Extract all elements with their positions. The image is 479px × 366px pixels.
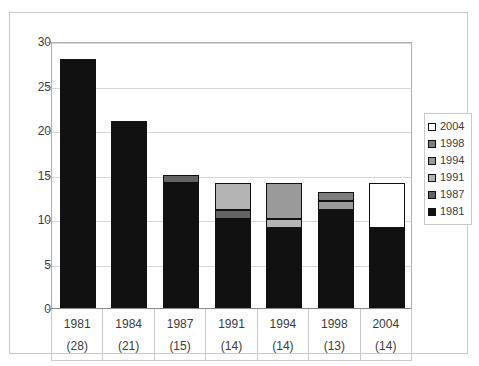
bar-segment-1991-1981[interactable] xyxy=(215,219,251,308)
category-year-label: 1981 xyxy=(64,317,91,331)
bar-segment-1987-1987[interactable] xyxy=(163,175,199,184)
category-count-label: (14) xyxy=(272,339,293,353)
category-year-label: 2004 xyxy=(372,317,399,331)
legend-item-1994[interactable]: 1994 xyxy=(428,152,468,169)
legend-swatch-icon-1994 xyxy=(428,157,436,165)
category-cell-1991: 1991(14) xyxy=(206,309,257,360)
bar-segment-1994-1991[interactable] xyxy=(266,219,302,228)
legend-label: 1998 xyxy=(440,138,464,149)
legend-swatch-icon-1981 xyxy=(428,208,436,216)
bar-segment-1998-1994[interactable] xyxy=(318,201,354,210)
category-year-label: 1991 xyxy=(218,317,245,331)
legend-label: 1991 xyxy=(440,172,464,183)
category-year-label: 1984 xyxy=(115,317,142,331)
bar-column-1981[interactable] xyxy=(60,41,96,308)
legend-item-1998[interactable]: 1998 xyxy=(428,135,468,152)
bar-segment-2004-2004[interactable] xyxy=(369,183,405,228)
bar-segment-1984-1981[interactable] xyxy=(111,121,147,308)
category-year-label: 1987 xyxy=(167,317,194,331)
category-count-label: (14) xyxy=(375,339,396,353)
category-year-label: 1998 xyxy=(321,317,348,331)
y-axis: 051015202530 xyxy=(10,13,51,313)
legend-label: 1981 xyxy=(440,206,464,217)
legend-label: 1987 xyxy=(440,189,464,200)
legend-item-1981[interactable]: 1981 xyxy=(428,203,468,220)
bar-column-2004[interactable] xyxy=(369,41,405,308)
category-cell-1981: 1981(28) xyxy=(52,309,103,360)
bar-column-1987[interactable] xyxy=(163,41,199,308)
legend-swatch-icon-1991 xyxy=(428,174,436,182)
bar-segment-1998-1981[interactable] xyxy=(318,210,354,308)
legend-swatch-icon-1987 xyxy=(428,191,436,199)
category-cell-1987: 1987(15) xyxy=(155,309,206,360)
category-count-label: (15) xyxy=(169,339,190,353)
category-count-label: (21) xyxy=(118,339,139,353)
legend-swatch-icon-2004 xyxy=(428,123,436,131)
category-year-label: 1994 xyxy=(270,317,297,331)
bar-segment-1991-1987[interactable] xyxy=(215,210,251,219)
plot-area xyxy=(51,42,412,309)
bar-segment-2004-1981[interactable] xyxy=(369,228,405,308)
chart-frame: 051015202530 1981(28)1984(21)1987(15)199… xyxy=(9,12,468,354)
category-label-table: 1981(28)1984(21)1987(15)1991(14)1994(14)… xyxy=(51,309,412,361)
legend-label: 2004 xyxy=(440,121,464,132)
category-cell-2004: 2004(14) xyxy=(361,309,411,360)
legend-item-1987[interactable]: 1987 xyxy=(428,186,468,203)
bar-segment-1987-1981[interactable] xyxy=(163,183,199,308)
category-cell-1998: 1998(13) xyxy=(309,309,360,360)
bar-column-1998[interactable] xyxy=(318,41,354,308)
bar-column-1994[interactable] xyxy=(266,41,302,308)
category-cell-1984: 1984(21) xyxy=(103,309,154,360)
legend-label: 1994 xyxy=(440,155,464,166)
legend-item-1991[interactable]: 1991 xyxy=(428,169,468,186)
bar-column-1991[interactable] xyxy=(215,41,251,308)
bar-column-1984[interactable] xyxy=(111,41,147,308)
bar-segment-1991-1991[interactable] xyxy=(215,183,251,210)
chart-legend: 200419981994199119871981 xyxy=(424,113,472,225)
category-count-label: (14) xyxy=(221,339,242,353)
category-count-label: (13) xyxy=(324,339,345,353)
bar-segment-1981-1981[interactable] xyxy=(60,59,96,308)
bar-segment-1994-1994[interactable] xyxy=(266,183,302,219)
legend-item-2004[interactable]: 2004 xyxy=(428,118,468,135)
category-count-label: (28) xyxy=(67,339,88,353)
bar-segment-1998-1998[interactable] xyxy=(318,192,354,201)
bar-segment-1994-1981[interactable] xyxy=(266,228,302,308)
legend-swatch-icon-1998 xyxy=(428,140,436,148)
category-cell-1994: 1994(14) xyxy=(258,309,309,360)
